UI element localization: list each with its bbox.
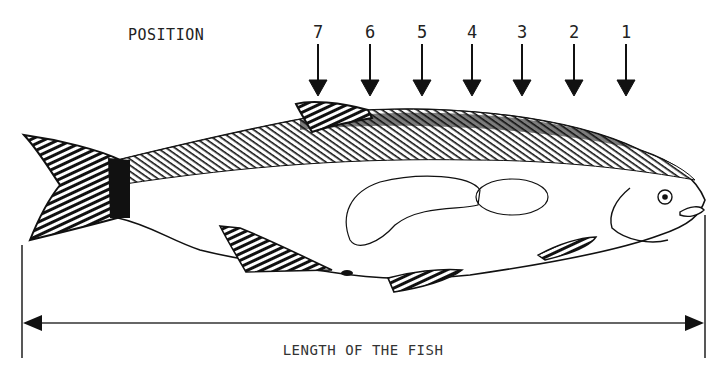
adipose-mark <box>341 270 353 276</box>
position-label-2: 2 <box>569 22 579 42</box>
arrow-icon-5 <box>413 44 431 96</box>
arrow-icon-3 <box>513 44 531 96</box>
arrow-icon-6 <box>361 44 379 96</box>
position-label-7: 7 <box>313 22 323 42</box>
arrow-icon-1 <box>617 44 635 96</box>
length-label: LENGTH OF THE FISH <box>0 342 726 358</box>
position-arrows <box>309 44 635 96</box>
left-arrowhead-icon <box>23 315 42 331</box>
right-arrowhead-icon <box>685 315 704 331</box>
arrow-icon-7 <box>309 44 327 96</box>
position-label-4: 4 <box>467 22 477 42</box>
fish-diagram <box>0 0 726 387</box>
position-title: POSITION <box>128 26 204 44</box>
arrow-icon-2 <box>565 44 583 96</box>
position-label-5: 5 <box>417 22 427 42</box>
position-label-6: 6 <box>365 22 375 42</box>
position-label-1: 1 <box>621 22 631 42</box>
position-label-3: 3 <box>517 22 527 42</box>
arrow-icon-4 <box>463 44 481 96</box>
